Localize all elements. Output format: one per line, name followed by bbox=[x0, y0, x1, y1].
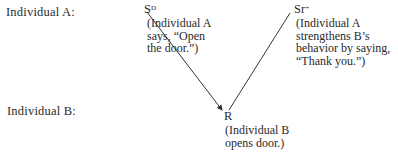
node-sr: Sr+ bbox=[294, 3, 309, 16]
individual-b-label: Individual B: bbox=[7, 105, 76, 118]
sr-superscript: + bbox=[305, 4, 309, 12]
individual-a-label: Individual A: bbox=[6, 6, 75, 19]
sd-caption: (Individual A says, “Open the door.”) bbox=[147, 17, 211, 55]
sd-caption-line: the door.”) bbox=[147, 42, 211, 55]
sd-symbol: S bbox=[144, 2, 151, 16]
node-r: R bbox=[224, 110, 232, 123]
sr-symbol: Sr bbox=[294, 2, 305, 16]
r-caption-line: opens door.) bbox=[225, 137, 289, 150]
sr-caption-line: (Individual A bbox=[296, 17, 390, 30]
r-caption: (Individual B opens door.) bbox=[225, 124, 289, 149]
sr-caption-line: “Thank you.”) bbox=[296, 55, 390, 68]
line-r-to-sr bbox=[229, 13, 290, 110]
sr-caption-line: behavior by saying, bbox=[296, 42, 390, 55]
sd-superscript: D bbox=[151, 4, 156, 12]
sd-caption-line: (Individual A bbox=[147, 17, 211, 30]
r-symbol: R bbox=[224, 109, 232, 123]
sr-caption: (Individual A strengthens B’s behavior b… bbox=[296, 17, 390, 67]
r-caption-line: (Individual B bbox=[225, 124, 289, 137]
node-sd: SD bbox=[144, 3, 156, 16]
